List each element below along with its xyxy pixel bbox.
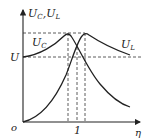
y-tick-u: U — [10, 51, 20, 64]
origin-label: o — [11, 122, 17, 133]
x-tick-one: 1 — [74, 124, 81, 137]
curve-ul-label: UL — [121, 38, 135, 52]
curve-uc-label: UC — [32, 36, 47, 50]
x-axis-label: η — [135, 127, 141, 138]
y-axis-label: UC,UL — [28, 7, 60, 21]
resonance-diagram: UC,UL UC UL U o 1 η — [0, 0, 145, 139]
